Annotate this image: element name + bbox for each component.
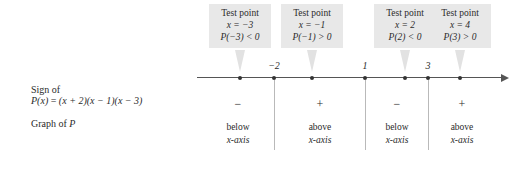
graph-region-axis: x-axis [432,134,492,147]
test-point-pointer-3 [400,50,410,72]
axis-zero-label-3: 3 [413,60,443,71]
test-point-x-value: x = 4 [434,19,486,31]
test-point-pointer-1 [235,50,245,72]
axis-zero-dot-1 [363,76,367,80]
axis-test-point-dot-4 [458,76,462,80]
axis-test-point-dot-1 [238,76,242,80]
graph-region-position: above [432,121,492,134]
test-point-p-value: P(−3) < 0 [214,31,266,43]
graph-region-3: below x-axis [369,121,425,146]
sign-region-3: − [369,97,425,112]
axis-zero-dot-3 [426,76,430,80]
graph-region-position: below [369,121,425,134]
sign-chart-figure: Test point x = −3 P(−3) < 0 Test point x… [0,0,521,170]
test-point-pointer-4 [455,50,465,72]
test-point-box-2: Test point x = −1 P(−1) > 0 [281,4,343,48]
test-point-p-value: P(3) > 0 [434,31,486,43]
test-point-title: Test point [286,7,338,19]
axis-zero-label-1: 1 [350,60,380,71]
test-point-x-value: x = 2 [379,19,431,31]
sign-region-4: + [432,97,492,112]
graph-region-2: above x-axis [278,121,362,146]
sign-of-text: Sign of [31,84,60,95]
polynomial-equals: = [51,95,57,106]
test-point-title: Test point [214,7,266,19]
graph-region-4: above x-axis [432,121,492,146]
test-point-pointer-2 [307,50,317,72]
sign-region-2: + [278,97,362,112]
test-point-box-1: Test point x = −3 P(−3) < 0 [209,4,271,48]
graph-region-position: below [205,121,271,134]
axis-zero-dot-minus2 [272,76,276,80]
sign-of-label: Sign of [31,84,60,95]
polynomial-rhs: (x + 2)(x − 1)(x − 3) [59,95,143,106]
graph-of-p-symbol: P [69,118,75,129]
test-point-p-value: P(−1) > 0 [286,31,338,43]
polynomial-expression-label: P(x) = (x + 2)(x − 1)(x − 3) [31,95,142,106]
number-line-arrow-icon [501,74,509,82]
graph-region-axis: x-axis [278,134,362,147]
axis-test-point-dot-3 [403,76,407,80]
polynomial-lhs: P(x) [31,95,48,106]
graph-of-p-label: Graph of P [31,118,75,129]
region-divider-1 [274,80,275,150]
test-point-title: Test point [379,7,431,19]
test-point-p-value: P(2) < 0 [379,31,431,43]
test-point-x-value: x = −1 [286,19,338,31]
graph-region-position: above [278,121,362,134]
test-point-box-4: Test point x = 4 P(3) > 0 [429,4,491,48]
axis-zero-label-minus2: −2 [259,60,289,71]
graph-region-1: below x-axis [205,121,271,146]
sign-region-1: − [205,97,271,112]
region-divider-3 [428,80,429,150]
axis-test-point-dot-2 [310,76,314,80]
graph-region-axis: x-axis [369,134,425,147]
test-point-title: Test point [434,7,486,19]
test-point-x-value: x = −3 [214,19,266,31]
graph-of-text: Graph of [31,118,67,129]
region-divider-2 [365,80,366,150]
test-point-box-3: Test point x = 2 P(2) < 0 [374,4,436,48]
graph-region-axis: x-axis [205,134,271,147]
